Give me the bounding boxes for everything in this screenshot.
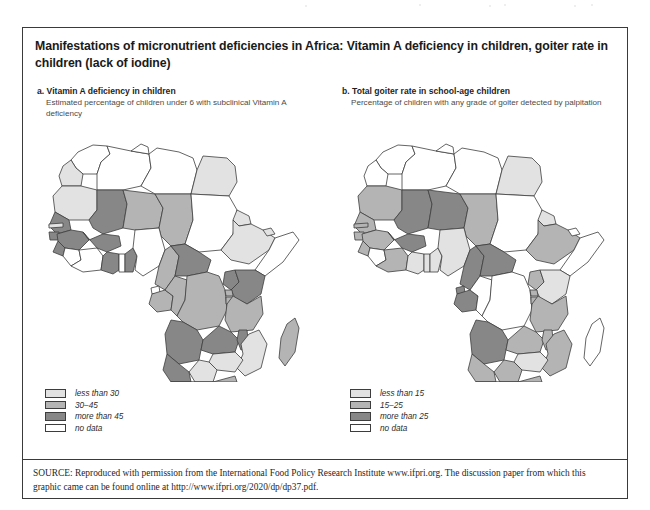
panel-goiter-rate: b. Total goiter rate in school-age child… (336, 86, 631, 454)
legend-swatch-mid (45, 401, 66, 410)
legend-vitamin-a: less than 30 30–45 more than 45 no data (45, 388, 245, 434)
country-gambia (49, 223, 63, 228)
country-ghana (406, 252, 424, 274)
scan-artifact (300, 2, 640, 10)
legend-item: 15–25 (350, 400, 550, 411)
country-ghana (101, 252, 119, 274)
country-togo (119, 254, 125, 272)
legend-item: no data (350, 423, 550, 434)
country-rwanda (225, 290, 233, 296)
panel-b-header: b. Total goiter rate in school-age child… (342, 86, 628, 109)
legend-item: no data (45, 423, 245, 434)
country-libya (446, 148, 502, 194)
figure-frame: Manifestations of micronutrient deficien… (22, 27, 628, 499)
country-togo (424, 254, 430, 272)
source-divider (23, 459, 627, 460)
legend-label: 15–25 (380, 401, 403, 410)
legend-label: less than 15 (380, 389, 424, 398)
legend-label: more than 25 (380, 412, 428, 421)
legend-label: more than 45 (75, 412, 123, 421)
legend-label: no data (75, 424, 102, 433)
panel-b-title: b. Total goiter rate in school-age child… (342, 86, 628, 97)
source-note: SOURCE: Reproduced with permission from … (33, 467, 615, 494)
country-egypt (191, 156, 237, 196)
panel-a-title: a. Vitamin A deficiency in children (37, 86, 323, 97)
country-madagascar (279, 318, 299, 366)
panel-a-header: a. Vitamin A deficiency in children Esti… (37, 86, 323, 120)
figure-title: Manifestations of micronutrient deficien… (35, 38, 613, 71)
legend-item: 30–45 (45, 400, 245, 411)
legend-item: more than 45 (45, 411, 245, 422)
legend-goiter: less than 15 15–25 more than 25 no data (350, 388, 550, 434)
legend-item: less than 30 (45, 388, 245, 399)
source-text: Reproduced with permission from the Inte… (33, 468, 586, 492)
legend-label: less than 30 (75, 389, 119, 398)
legend-swatch-low (45, 389, 66, 398)
country-rwanda (530, 290, 538, 296)
country-libya (141, 148, 197, 194)
legend-label: no data (380, 424, 407, 433)
legend-swatch-nodata (350, 424, 371, 433)
africa-map-goiter (336, 124, 631, 382)
legend-swatch-high (350, 412, 371, 421)
legend-label: 30–45 (75, 401, 98, 410)
legend-swatch-nodata (45, 424, 66, 433)
source-label: SOURCE: (33, 468, 73, 478)
legend-swatch-mid (350, 401, 371, 410)
legend-swatch-low (350, 389, 371, 398)
figure-root: Manifestations of micronutrient deficien… (0, 0, 650, 510)
country-gambia (354, 223, 368, 228)
panel-vitamin-a: a. Vitamin A deficiency in children Esti… (31, 86, 326, 454)
legend-swatch-high (45, 412, 66, 421)
country-egypt (496, 156, 542, 196)
legend-item: more than 25 (350, 411, 550, 422)
country-madagascar (584, 318, 604, 366)
panel-a-subtitle: Estimated percentage of children under 6… (37, 98, 323, 120)
legend-item: less than 15 (350, 388, 550, 399)
africa-map-vitamin-a (31, 124, 326, 382)
panel-b-subtitle: Percentage of children with any grade of… (342, 98, 628, 109)
